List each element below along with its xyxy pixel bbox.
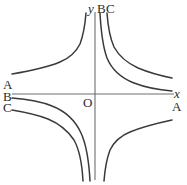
curve-b-top-label: B <box>97 2 106 15</box>
hyperbola-figure: y B C A B C x A O <box>0 0 187 185</box>
curve-c-top-label: C <box>106 2 115 15</box>
coordinate-plot-canvas <box>0 0 187 185</box>
curve-a-branch-quadrant-2 <box>12 13 86 74</box>
axis-group <box>12 12 174 180</box>
curve-a-right-label: A <box>172 100 181 113</box>
origin-label: O <box>83 96 92 109</box>
curve-c-left-label: C <box>3 101 12 114</box>
curve-a-branch-quadrant-4 <box>104 120 172 181</box>
curve-c-branch-quadrant-3 <box>12 98 90 181</box>
curve-b-branch-quadrant-1 <box>107 13 172 78</box>
curve-c-branch-quadrant-1 <box>100 13 172 91</box>
y-axis-label: y <box>88 2 94 15</box>
